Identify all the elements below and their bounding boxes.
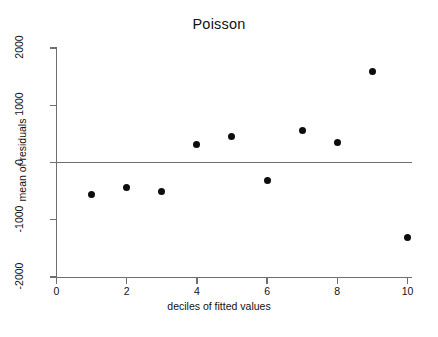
x-axis-tick-label: 0 (37, 285, 77, 297)
scatter-point (123, 184, 130, 191)
scatter-point (369, 68, 376, 75)
x-axis-tick-label: 6 (247, 285, 287, 297)
x-axis-tick-label: 4 (177, 285, 217, 297)
x-axis-tick-label: 2 (107, 285, 147, 297)
y-axis-tick (50, 105, 56, 106)
chart-figure: Poisson -2000-1000010002000 0246810 mean… (0, 0, 438, 337)
x-axis-title: deciles of fitted values (0, 300, 438, 312)
x-axis-tick (196, 278, 197, 284)
x-axis-tick (337, 278, 338, 284)
scatter-point (299, 127, 306, 134)
scatter-point (158, 188, 165, 195)
y-axis-tick-label: 2000 (13, 26, 25, 68)
scatter-point (264, 177, 271, 184)
x-axis-tick (266, 278, 267, 284)
scatter-point (88, 191, 95, 198)
scatter-point (334, 139, 341, 146)
x-axis-tick (407, 278, 408, 284)
x-axis-tick (56, 278, 57, 284)
x-axis-tick (126, 278, 127, 284)
y-axis-title: mean of residuals (16, 70, 28, 250)
scatter-point (193, 141, 200, 148)
scatter-point (404, 234, 411, 241)
y-axis-tick-label: -2000 (13, 255, 25, 297)
y-axis-tick (50, 219, 56, 220)
x-axis-tick-label: 10 (387, 285, 427, 297)
scatter-point (228, 133, 235, 140)
zero-reference-line (56, 162, 412, 163)
x-axis-line (56, 277, 412, 278)
x-axis-tick-label: 8 (317, 285, 357, 297)
y-axis-tick (50, 47, 56, 48)
y-axis-tick (50, 162, 56, 163)
chart-title: Poisson (0, 16, 438, 32)
